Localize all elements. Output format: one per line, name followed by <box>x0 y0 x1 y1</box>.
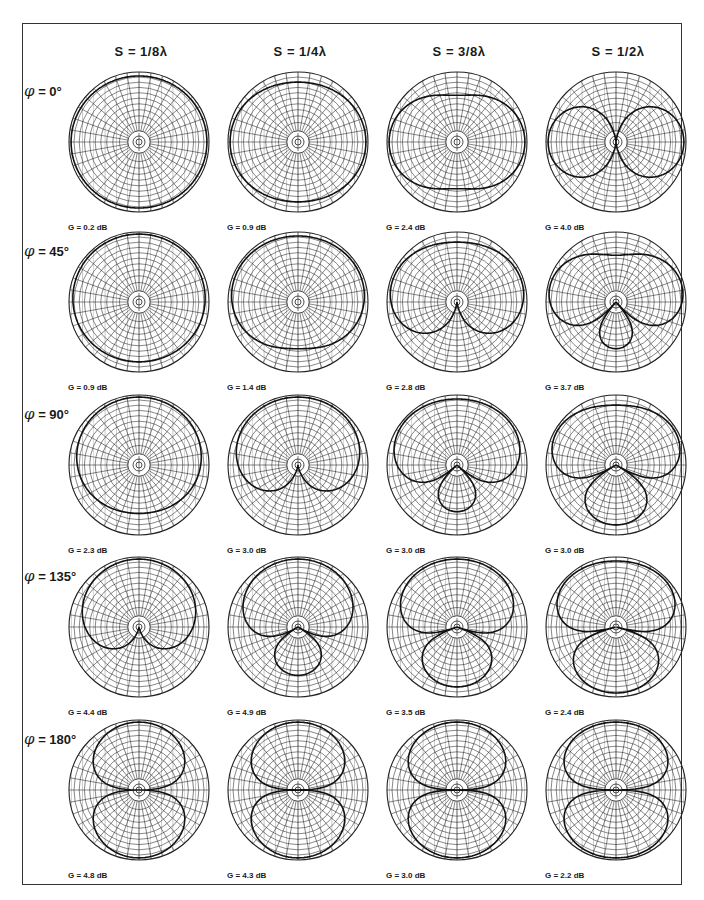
polar-chart <box>382 227 532 377</box>
polar-pattern-plot: G = 3.5 dB <box>382 552 532 717</box>
polar-pattern-plot: G = 2.2 dB <box>541 715 691 880</box>
polar-chart <box>64 390 214 540</box>
polar-pattern-plot: G = 4.8 dB <box>64 715 214 880</box>
polar-pattern-plot: G = 3.7 dB <box>541 227 691 392</box>
polar-chart <box>64 227 214 377</box>
polar-pattern-plot: G = 4.0 dB <box>541 67 691 232</box>
column-header-spacing: S = 1/4λ <box>240 44 360 59</box>
column-header-spacing: S = 1/2λ <box>558 44 678 59</box>
row-label-phase: φ = 0° <box>24 82 62 100</box>
polar-pattern-plot: G = 2.4 dB <box>541 552 691 717</box>
polar-pattern-plot: G = 1.4 dB <box>223 227 373 392</box>
polar-chart <box>541 227 691 377</box>
polar-chart <box>223 390 373 540</box>
polar-pattern-plot: G = 4.9 dB <box>223 552 373 717</box>
polar-pattern-plot: G = 0.9 dB <box>223 67 373 232</box>
phi-symbol: φ <box>24 567 35 585</box>
polar-pattern-plot: G = 3.0 dB <box>541 390 691 555</box>
polar-chart <box>382 552 532 702</box>
phi-symbol: φ <box>24 730 35 748</box>
polar-chart <box>382 715 532 865</box>
polar-chart <box>64 67 214 217</box>
polar-pattern-plot: G = 4.3 dB <box>223 715 373 880</box>
polar-pattern-plot: G = 0.2 dB <box>64 67 214 232</box>
column-header-spacing: S = 1/8λ <box>81 44 201 59</box>
gain-label: G = 3.0 dB <box>386 871 425 880</box>
polar-chart <box>223 715 373 865</box>
polar-pattern-plot: G = 3.0 dB <box>382 390 532 555</box>
polar-chart <box>223 67 373 217</box>
polar-pattern-plot: G = 0.9 dB <box>64 227 214 392</box>
column-header-spacing: S = 3/8λ <box>399 44 519 59</box>
gain-label: G = 4.3 dB <box>227 871 266 880</box>
row-label-phase: φ = 90° <box>24 405 69 423</box>
phi-symbol: φ <box>24 82 35 100</box>
gain-label: G = 2.2 dB <box>545 871 584 880</box>
phi-symbol: φ <box>24 405 35 423</box>
polar-pattern-plot: G = 2.4 dB <box>382 67 532 232</box>
polar-pattern-plot: G = 3.0 dB <box>382 715 532 880</box>
polar-chart <box>382 67 532 217</box>
gain-label: G = 4.8 dB <box>68 871 107 880</box>
row-label-phase: φ = 45° <box>24 242 69 260</box>
phase-value: = 0° <box>35 84 62 99</box>
polar-pattern-plot: G = 4.4 dB <box>64 552 214 717</box>
polar-chart <box>64 552 214 702</box>
polar-pattern-plot: G = 2.8 dB <box>382 227 532 392</box>
polar-chart <box>541 390 691 540</box>
polar-pattern-plot: G = 3.0 dB <box>223 390 373 555</box>
polar-chart <box>541 715 691 865</box>
phi-symbol: φ <box>24 242 35 260</box>
polar-pattern-plot: G = 2.3 dB <box>64 390 214 555</box>
polar-chart <box>223 552 373 702</box>
polar-chart <box>223 227 373 377</box>
polar-chart <box>541 67 691 217</box>
polar-chart <box>64 715 214 865</box>
polar-chart <box>541 552 691 702</box>
polar-chart <box>382 390 532 540</box>
